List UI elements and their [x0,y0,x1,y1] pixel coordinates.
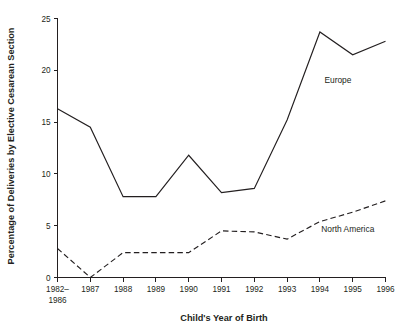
series-label-north-america: North America [321,224,374,234]
y-axis-tick-label: 5 [46,222,51,231]
x-axis-tick-label: 1994 [311,285,330,294]
x-axis-tick-label-line2: 1986 [48,296,67,305]
x-axis-tick-label: 1990 [180,285,199,294]
y-axis-tick-label: 0 [46,274,51,283]
x-axis-tick-label: 1987 [81,285,100,294]
chart-background [0,0,401,331]
x-axis-tick-label: 1993 [278,285,297,294]
series-label-europe: Europe [324,75,351,85]
x-axis-tick-label: 1989 [147,285,166,294]
x-axis-title: Child's Year of Birth [180,313,268,323]
y-axis-tick-label: 10 [41,170,51,179]
x-axis-tick-label: 1991 [212,285,231,294]
x-axis-tick-label: 1982– [46,285,69,294]
chart-container: 0510152025 1982–198619871988198919901991… [0,0,401,331]
x-axis-tick-label: 1988 [114,285,133,294]
y-axis-tick-label: 20 [41,66,51,75]
x-axis-tick-label: 1992 [245,285,264,294]
line-chart: 0510152025 1982–198619871988198919901991… [0,0,401,331]
y-axis-title: Percentage of Deliveries by Elective Ces… [6,27,16,264]
y-axis-tick-label: 25 [41,15,51,24]
x-axis-tick-label: 1996 [376,285,395,294]
y-axis-tick-label: 15 [41,118,51,127]
x-axis-tick-label: 1995 [344,285,363,294]
